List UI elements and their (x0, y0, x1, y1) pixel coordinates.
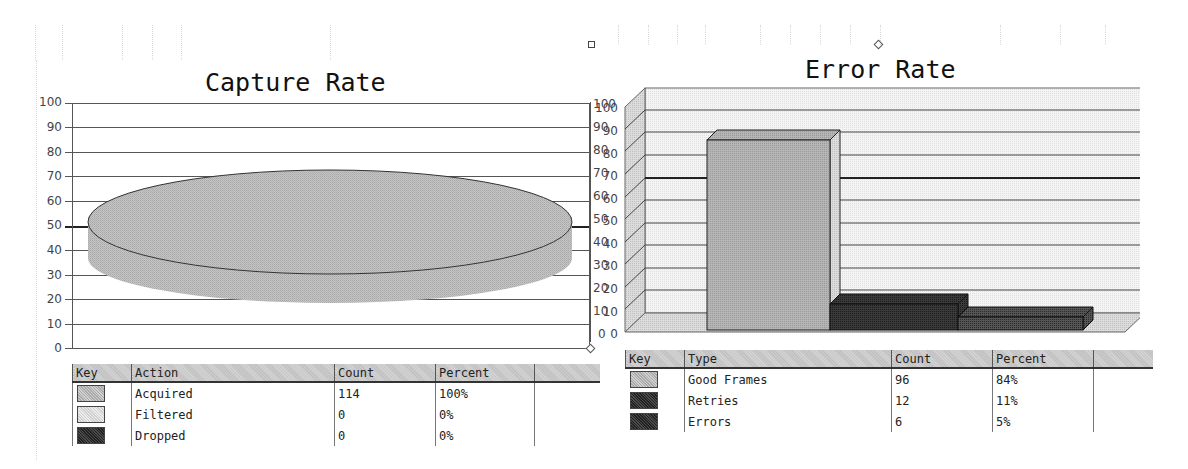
table-row[interactable]: Retries 12 11% (626, 390, 1154, 411)
row-count: 6 (892, 411, 993, 432)
row-label: Filtered (132, 404, 335, 425)
bar-retries (830, 294, 968, 330)
key-swatch-good-frames (630, 371, 658, 388)
row-percent: 11% (993, 390, 1094, 411)
error-chart-title: Error Rate (805, 55, 956, 84)
key-swatch-retries (630, 392, 658, 409)
col-count: Count (335, 364, 436, 382)
row-count: 0 (335, 404, 436, 425)
row-percent: 5% (993, 411, 1094, 432)
row-percent: 100% (436, 382, 535, 404)
error-table-header: Key Type Count Percent (626, 350, 1154, 368)
capture-table-header: Key Action Count Percent (73, 364, 601, 382)
error-legend-table: Key Type Count Percent Good Frames 96 84… (625, 350, 1153, 432)
table-row[interactable]: Filtered 0 0% (73, 404, 601, 425)
col-type: Type (685, 350, 892, 368)
row-label: Retries (685, 390, 892, 411)
table-row[interactable]: Acquired 114 100% (73, 382, 601, 404)
col-extra (1094, 350, 1154, 368)
bar-errors (958, 307, 1093, 330)
row-count: 96 (892, 368, 993, 390)
row-percent: 84% (993, 368, 1094, 390)
row-percent: 0% (436, 404, 535, 425)
capture-chart-title: Capture Rate (205, 68, 386, 97)
selection-handle-diamond[interactable] (874, 40, 884, 50)
row-label: Acquired (132, 382, 335, 404)
col-extra (535, 364, 601, 382)
resize-handle-diamond[interactable] (586, 344, 596, 354)
col-count: Count (892, 350, 993, 368)
row-count: 12 (892, 390, 993, 411)
capture-legend-table: Key Action Count Percent Acquired 114 10… (72, 364, 600, 446)
error-bar-chart-3d (620, 85, 1140, 340)
col-percent: Percent (993, 350, 1094, 368)
bar-good-frames (707, 130, 840, 330)
row-label: Dropped (132, 425, 335, 446)
col-key: Key (626, 350, 685, 368)
table-row[interactable]: Good Frames 96 84% (626, 368, 1154, 390)
row-count: 0 (335, 425, 436, 446)
selection-handle-square[interactable] (588, 41, 595, 48)
col-percent: Percent (436, 364, 535, 382)
key-swatch-dropped (77, 427, 105, 444)
capture-pie-3d[interactable] (80, 140, 580, 310)
row-label: Errors (685, 411, 892, 432)
key-swatch-errors (630, 413, 658, 430)
row-count: 114 (335, 382, 436, 404)
col-key: Key (73, 364, 132, 382)
row-percent: 0% (436, 425, 535, 446)
key-swatch-acquired (77, 385, 105, 402)
table-row[interactable]: Errors 6 5% (626, 411, 1154, 432)
key-swatch-filtered (77, 406, 105, 423)
table-row[interactable]: Dropped 0 0% (73, 425, 601, 446)
col-action: Action (132, 364, 335, 382)
row-label: Good Frames (685, 368, 892, 390)
